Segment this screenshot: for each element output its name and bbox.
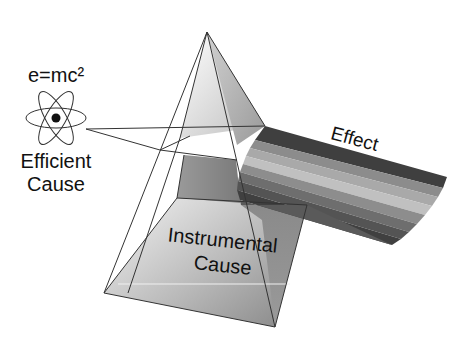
efficient-cause-label-line2: Cause [27,173,85,195]
causality-diagram: e=mc² Efficient Cause Instrumental Cause… [0,0,465,349]
atom-icon [26,87,86,149]
diagram-canvas: e=mc² Efficient Cause Instrumental Cause… [0,0,465,349]
efficient-cause-label-line1: Efficient [21,150,92,172]
middle-front-face [177,155,241,205]
formula-label: e=mc² [28,64,84,86]
